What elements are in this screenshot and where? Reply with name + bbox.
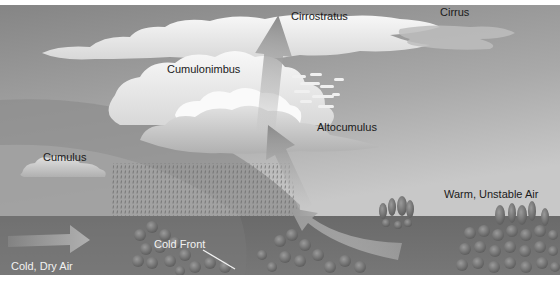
label-warm-unstable-air: Warm, Unstable Air <box>444 189 538 200</box>
diagram-canvas <box>0 5 560 275</box>
label-cold-dry-air: Cold, Dry Air <box>11 261 73 272</box>
cold-front-diagram: Cirrostratus Cirrus Cumulonimbus Altocum… <box>0 5 560 275</box>
label-cumulonimbus: Cumulonimbus <box>167 64 240 75</box>
rain-area <box>110 163 298 216</box>
label-cumulus: Cumulus <box>43 152 86 163</box>
label-cirrus: Cirrus <box>440 7 469 18</box>
label-cirrostratus: Cirrostratus <box>291 11 348 22</box>
label-cold-front: Cold Front <box>154 239 205 250</box>
label-altocumulus: Altocumulus <box>317 122 377 133</box>
